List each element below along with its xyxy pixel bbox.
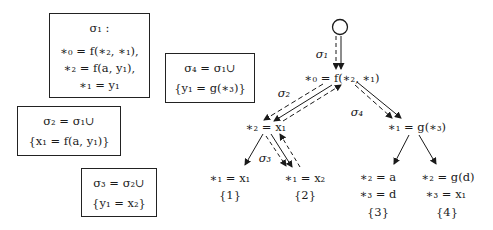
leaf-2-set: {2} (294, 188, 316, 202)
leaf-4-line-2: ∗₃ = x₁ (426, 187, 466, 201)
leaf-3-line-2: ∗₃ = d (360, 187, 397, 201)
leaf-4-line-1: ∗₂ = g(d) (421, 170, 474, 184)
tree-edges (0, 0, 493, 230)
leaf-3-set: {3} (367, 205, 389, 219)
edge-label-sigma1: σ₁ (316, 47, 328, 61)
right-node: ∗₁ = g(∗₃) (388, 120, 446, 134)
edge-label-sigma4: σ₄ (351, 105, 363, 119)
leaf-1-line-1: ∗₁ = x₁ (210, 171, 250, 185)
root-node: ∗₀ = f(∗₂, ∗₁) (305, 71, 380, 85)
leaf-1-set: {1} (219, 188, 241, 202)
left-node: ∗₂ = x₁ (246, 120, 286, 134)
leaf-3-line-1: ∗₂ = a (360, 170, 396, 184)
edge-label-sigma2: σ₂ (278, 86, 290, 100)
leaf-4-set: {4} (436, 205, 458, 219)
start-node-icon (333, 20, 348, 35)
leaf-2-line-1: ∗₁ = x₂ (285, 171, 325, 185)
edge-label-sigma3: σ₃ (259, 151, 271, 165)
